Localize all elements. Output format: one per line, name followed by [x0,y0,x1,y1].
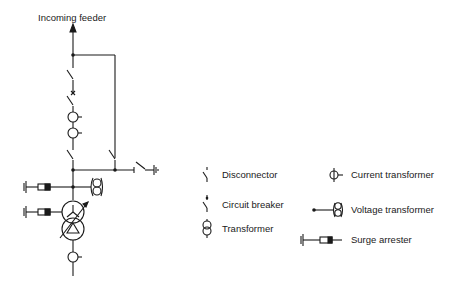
disconnector-icon [109,150,115,170]
earthing-switch-icon [136,162,158,175]
legend-current-transformer-icon [330,168,343,182]
surge-arrester-icon [24,181,73,193]
power-transformer-icon [60,201,88,240]
legend-disconnector-icon [203,167,207,182]
current-transformer-icon [68,252,82,276]
bypass-line [71,53,115,158]
surge-arrester-icon [24,206,62,218]
legend-label-transformer: Transformer [222,224,273,234]
legend-voltage-transformer-icon [312,203,342,217]
incoming-feeder-arrow-icon [70,24,76,55]
legend-label-circuit-breaker: Circuit breaker [222,200,284,210]
legend-transformer-icon [203,219,211,238]
current-transformer-icon [68,112,82,128]
legend-label-current-transformer: Current transformer [351,170,434,180]
current-transformer-icon [68,128,82,150]
voltage-transformer-icon [73,178,103,196]
circuit-breaker-icon [67,91,75,112]
single-line-diagram [0,0,450,293]
legend-circuit-breaker-icon [203,195,208,212]
legend-label-disconnector: Disconnector [222,170,277,180]
disconnector-icon [67,55,73,92]
busbar [71,167,134,173]
disconnector-icon [67,150,73,170]
legend-label-voltage-transformer: Voltage transformer [351,205,434,215]
legend-label-surge-arrester: Surge arrester [351,235,412,245]
legend-surge-arrester-icon [301,234,342,246]
